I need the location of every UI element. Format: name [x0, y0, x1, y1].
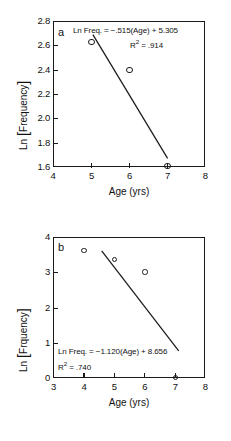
panel-b-data-point	[142, 269, 147, 274]
panel-b-data-point	[81, 248, 86, 253]
panel-b-regression-line	[0, 215, 231, 441]
panel-a-data-point	[88, 39, 94, 45]
panel-b: Ln [Frquency] 4 3 2 1 0 3 4 5 6 7 8 Age …	[0, 215, 231, 441]
panel-a-data-point	[126, 67, 132, 73]
panel-a-regression-line	[0, 0, 231, 215]
panel-a-data-point	[164, 163, 170, 169]
panel-a: Ln [Frequency] 2.8 2.6 2.4 2.2 2.0 1.8 1…	[0, 0, 231, 215]
panel-b-data-point	[173, 375, 178, 380]
